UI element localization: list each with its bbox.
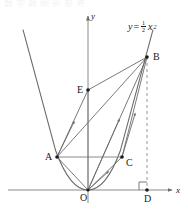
figure-canvas: [0, 0, 188, 215]
point-markers: [55, 55, 149, 192]
segment-O-B: [88, 57, 147, 190]
segment-A-B: [57, 57, 147, 157]
point-dot-B: [145, 55, 149, 59]
segments-group: [57, 57, 147, 190]
equation-equals: =: [133, 22, 139, 32]
x-axis-label: x: [176, 186, 180, 195]
equation-exponent: 2: [154, 24, 157, 30]
point-label-D: D: [144, 194, 151, 204]
equation-denominator: 2: [141, 26, 146, 33]
point-dot-C: [120, 155, 124, 159]
geometry-figure: 数学题图形参考: [0, 0, 188, 215]
point-label-A: A: [45, 152, 52, 162]
segment-A-E: [57, 90, 88, 157]
equation-fraction: 1 2: [141, 20, 146, 34]
segment-C-B: [122, 57, 147, 157]
point-label-B: B: [153, 52, 160, 62]
equation-y: y: [128, 22, 132, 32]
curve-equation-label: y = 1 2 x 2: [128, 20, 157, 34]
point-label-E: E: [77, 85, 83, 95]
segment-O-A: [57, 157, 88, 190]
axes-group: [8, 16, 172, 203]
y-axis-label: y: [91, 12, 95, 21]
segment-O-C: [88, 157, 122, 190]
point-dot-D: [145, 188, 149, 192]
equation-variable: x: [148, 22, 152, 32]
point-label-C: C: [126, 158, 133, 168]
point-dot-E: [86, 88, 90, 92]
point-label-O: O: [80, 193, 87, 203]
point-dot-A: [55, 155, 59, 159]
